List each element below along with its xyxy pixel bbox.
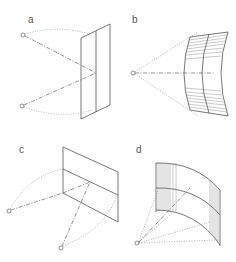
arc-a-top bbox=[25, 29, 92, 35]
panel-midline-c bbox=[63, 169, 118, 195]
flat-panel-a bbox=[81, 24, 110, 119]
curve-d-middle bbox=[156, 188, 220, 215]
source-icon-c-left bbox=[7, 209, 11, 213]
panel-c bbox=[7, 147, 118, 250]
ray-d-1 bbox=[139, 190, 158, 241]
ray-c-left-1 bbox=[11, 193, 63, 210]
source-icon-b bbox=[131, 71, 135, 75]
diagram-drawing bbox=[0, 0, 236, 262]
panel-a bbox=[20, 24, 110, 119]
source-icon-a-bottom bbox=[20, 104, 24, 108]
hatching-b-top bbox=[185, 35, 227, 59]
source-icon-d bbox=[135, 241, 139, 245]
panel-d bbox=[135, 163, 220, 246]
ray-d-3 bbox=[139, 222, 210, 243]
panel-b bbox=[131, 32, 228, 116]
arc-c-left bbox=[10, 169, 63, 209]
curve-d-top bbox=[156, 163, 220, 190]
source-icon-a-top bbox=[21, 33, 25, 37]
source-icon-c-bottom bbox=[59, 246, 63, 250]
ray-d-center bbox=[139, 188, 190, 242]
curve-b-inner bbox=[184, 37, 190, 110]
ray-b-top bbox=[135, 32, 198, 72]
ray-d-4 bbox=[139, 240, 218, 243]
ray-a-top bbox=[25, 36, 96, 73]
flat-panel-c bbox=[63, 147, 118, 222]
diagram-figure: a b c d bbox=[0, 0, 236, 262]
ray-b-bottom bbox=[135, 74, 198, 116]
hatching-b-bottom bbox=[185, 88, 227, 112]
hatching-d-left bbox=[158, 163, 176, 211]
curve-d-bottom bbox=[156, 210, 220, 245]
curve-b-outer bbox=[221, 32, 228, 116]
curve-b-middle bbox=[202, 34, 209, 113]
arc-c-bottom bbox=[63, 195, 117, 246]
arc-a-bottom bbox=[24, 107, 92, 114]
ray-a-bottom bbox=[24, 73, 96, 105]
